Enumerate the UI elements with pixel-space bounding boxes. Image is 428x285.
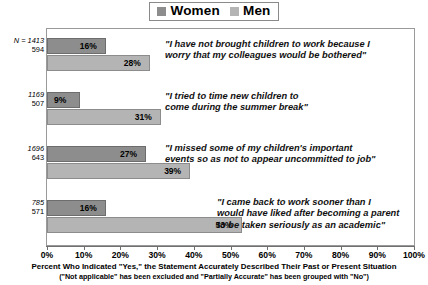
- legend-label-women: Women: [170, 4, 220, 18]
- legend-label-men: Men: [243, 4, 271, 18]
- bar-value-men: 39%: [164, 166, 181, 176]
- n-label-group: 1169507: [0, 90, 44, 109]
- legend-box: Women Men: [149, 2, 278, 21]
- legend-item-women: Women: [157, 4, 220, 18]
- quote-text: "I tried to time new children to come du…: [165, 91, 308, 114]
- x-axis-tick-labels: 0%10%20%30%40%50%60%70%80%90%100%: [0, 250, 428, 262]
- x-tick-label: 50%: [222, 250, 239, 260]
- x-axis-line: [46, 246, 415, 247]
- chart-note: ("Not applicable" has been excluded and …: [0, 272, 428, 281]
- n-label-men: 507: [0, 99, 44, 108]
- chart-container: Women Men N = 14135941169507169664378557…: [0, 0, 428, 285]
- x-tick-label: 30%: [148, 250, 165, 260]
- x-tick-label: 0%: [41, 250, 53, 260]
- legend-item-men: Men: [230, 4, 271, 18]
- n-label-women: N = 1413: [0, 36, 44, 45]
- bar-men: [47, 217, 242, 233]
- quote-text: "I came back to work sooner than I would…: [217, 197, 399, 231]
- x-tick-label: 80%: [332, 250, 349, 260]
- n-label-group: 1696643: [0, 144, 44, 163]
- n-label-women: 785: [0, 198, 44, 207]
- n-label-group: 785571: [0, 198, 44, 217]
- x-tick-label: 70%: [295, 250, 312, 260]
- legend-swatch-women-icon: [157, 7, 166, 16]
- plot-area: 16%28%9%31%27%39%16%53% "I have not brou…: [46, 28, 415, 246]
- bar-value-women: 16%: [80, 41, 97, 51]
- bar-value-men: 28%: [124, 58, 141, 68]
- n-label-men: 571: [0, 207, 44, 216]
- n-label-group: N = 1413594: [0, 36, 44, 55]
- chart-legend: Women Men: [0, 2, 428, 21]
- x-tick-label: 20%: [112, 250, 129, 260]
- n-label-men: 594: [0, 45, 44, 54]
- x-tick-label: 100%: [403, 250, 425, 260]
- x-axis-title: Percent Who Indicated "Yes," the Stateme…: [0, 262, 428, 271]
- bar-value-women: 27%: [120, 149, 137, 159]
- bar-value-men: 31%: [135, 112, 152, 122]
- x-tick-label: 90%: [369, 250, 386, 260]
- n-label-women: 1696: [0, 144, 44, 153]
- legend-swatch-men-icon: [230, 7, 239, 16]
- quote-text: "I missed some of my children's importan…: [165, 143, 376, 166]
- quote-text: "I have not brought children to work bec…: [165, 39, 370, 62]
- bar-women: [47, 38, 106, 54]
- x-tick-label: 10%: [75, 250, 92, 260]
- bar-value-women: 16%: [80, 203, 97, 213]
- bar-women: [47, 200, 106, 216]
- x-tick-label: 40%: [185, 250, 202, 260]
- n-label-men: 643: [0, 153, 44, 162]
- bar-value-women: 9%: [54, 95, 66, 105]
- x-tick-label: 60%: [259, 250, 276, 260]
- n-label-women: 1169: [0, 90, 44, 99]
